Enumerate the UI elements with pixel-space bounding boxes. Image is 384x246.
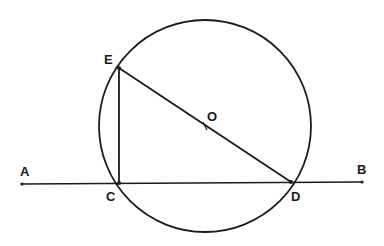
- point-D-dot: [289, 180, 293, 184]
- label-D: D: [291, 190, 300, 203]
- label-C: C: [106, 190, 115, 203]
- point-B-dot: [360, 180, 363, 183]
- line-AB: [22, 182, 362, 184]
- label-A: A: [20, 165, 29, 178]
- geometry-diagram: [0, 0, 384, 246]
- label-B: B: [357, 163, 366, 176]
- label-E: E: [104, 53, 113, 66]
- point-C-dot: [117, 181, 121, 185]
- point-E-dot: [117, 66, 121, 70]
- label-O: O: [207, 110, 217, 123]
- point-A-dot: [20, 182, 23, 185]
